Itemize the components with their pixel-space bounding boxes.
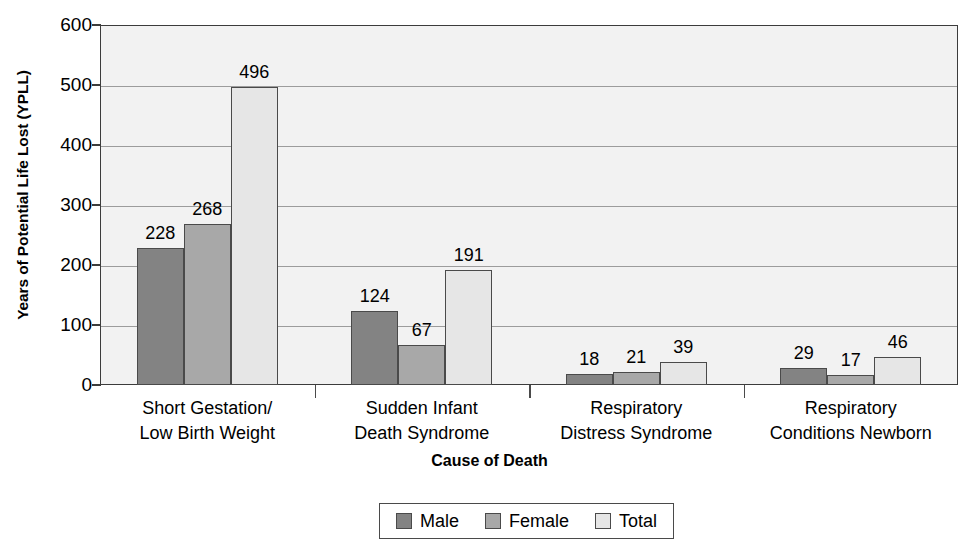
bar-male-2 — [566, 374, 613, 385]
bar-female-0 — [184, 224, 231, 385]
bar-male-0 — [137, 248, 184, 385]
x-category-label-line: Death Syndrome — [315, 421, 530, 446]
bar-total-2 — [660, 362, 707, 385]
bar-chart: Years of Potential Life Lost (YPLL) 0100… — [0, 0, 979, 554]
y-tick-label: 300 — [34, 194, 92, 216]
x-category-label-line: Short Gestation/ — [100, 396, 315, 421]
bar-value-label: 124 — [342, 286, 407, 307]
y-tick-label: 200 — [34, 254, 92, 276]
bars-layer: 22812418292686721174961913946 — [100, 25, 958, 385]
x-axis-title: Cause of Death — [0, 452, 979, 470]
y-tick-label: 0 — [34, 374, 92, 396]
legend-label: Female — [509, 511, 569, 532]
y-tick-label: 100 — [34, 314, 92, 336]
x-category-label: RespiratoryDistress Syndrome — [529, 396, 744, 446]
bar-value-label: 496 — [222, 62, 287, 83]
y-tick-label: 400 — [34, 134, 92, 156]
x-category-label: RespiratoryConditions Newborn — [744, 396, 959, 446]
x-category-label-line: Conditions Newborn — [744, 421, 959, 446]
x-category-label: Short Gestation/Low Birth Weight — [100, 396, 315, 446]
x-category-label-line: Sudden Infant — [315, 396, 530, 421]
x-category-label-line: Distress Syndrome — [529, 421, 744, 446]
bar-female-1 — [398, 345, 445, 385]
bar-total-3 — [874, 357, 921, 385]
legend-item-total[interactable]: Total — [595, 511, 657, 532]
x-category-label-line: Respiratory — [744, 396, 959, 421]
x-axis-category-labels: Short Gestation/Low Birth WeightSudden I… — [100, 396, 958, 452]
bar-value-label: 39 — [651, 337, 716, 358]
bar-value-label: 191 — [436, 245, 501, 266]
legend-item-male[interactable]: Male — [396, 511, 459, 532]
legend-item-female[interactable]: Female — [485, 511, 569, 532]
bar-female-2 — [613, 372, 660, 385]
legend-swatch-icon — [485, 513, 501, 529]
bar-value-label: 46 — [865, 332, 930, 353]
legend-label: Male — [420, 511, 459, 532]
legend-swatch-icon — [396, 513, 412, 529]
y-tick-label: 600 — [34, 14, 92, 36]
x-category-label-line: Respiratory — [529, 396, 744, 421]
y-axis-tick-labels: 0100200300400500600 — [28, 25, 92, 385]
legend: MaleFemaleTotal — [379, 503, 674, 539]
legend-label: Total — [619, 511, 657, 532]
bar-total-0 — [231, 87, 278, 385]
y-tick-label: 500 — [34, 74, 92, 96]
legend-swatch-icon — [595, 513, 611, 529]
x-category-label: Sudden InfantDeath Syndrome — [315, 396, 530, 446]
x-category-label-line: Low Birth Weight — [100, 421, 315, 446]
bar-total-1 — [445, 270, 492, 385]
bar-female-3 — [827, 375, 874, 385]
